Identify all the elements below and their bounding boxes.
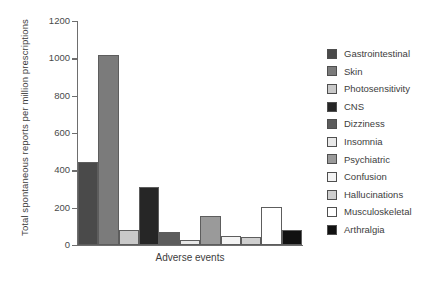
y-axis-tick: [72, 96, 77, 97]
y-axis-tick: [72, 245, 77, 246]
y-axis-tick-label: 0: [30, 239, 70, 250]
legend-swatch-icon: [327, 84, 337, 94]
legend-item-label: Psychiatric: [344, 155, 390, 165]
x-axis-title: Adverse events: [78, 252, 302, 263]
bar-chart-figure: Total spontaneous reports per million pr…: [0, 0, 437, 283]
legend-item-dizziness: Dizziness: [327, 115, 437, 133]
bar-confusion: [221, 236, 241, 245]
legend-item-musculoskeletal: Musculoskeletal: [327, 203, 437, 221]
y-axis-tick-label: 600: [30, 127, 70, 138]
legend-swatch-icon: [327, 102, 337, 112]
legend-item-arthralgia: Arthralgia: [327, 221, 437, 239]
y-axis-tick: [72, 133, 77, 134]
legend-swatch-icon: [327, 154, 337, 164]
bar-gastrointestinal: [78, 162, 98, 245]
legend-swatch-icon: [327, 190, 337, 200]
y-axis-tick-label: 1200: [30, 15, 70, 26]
legend-item-hallucinations: Hallucinations: [327, 186, 437, 204]
bar-insomnia: [180, 240, 200, 245]
legend-swatch-icon: [327, 225, 337, 235]
y-axis-tick-label: 1000: [30, 52, 70, 63]
legend-item-cns: CNS: [327, 98, 437, 116]
bar-hallucinations: [241, 237, 261, 245]
legend-swatch-icon: [327, 119, 337, 129]
legend-item-insomnia: Insomnia: [327, 133, 437, 151]
legend-item-label: Hallucinations: [344, 190, 403, 200]
legend-item-gastrointestinal: Gastrointestinal: [327, 45, 437, 63]
bar-photosensitivity: [119, 230, 139, 245]
y-axis-tick: [72, 21, 77, 22]
legend-item-label: Dizziness: [344, 119, 385, 129]
legend-item-psychiatric: Psychiatric: [327, 151, 437, 169]
legend-swatch-icon: [327, 172, 337, 182]
bar-series: [78, 21, 302, 245]
legend-swatch-icon: [327, 137, 337, 147]
legend-item-confusion: Confusion: [327, 168, 437, 186]
y-axis-tick: [72, 208, 77, 209]
legend-item-label: Gastrointestinal: [344, 49, 410, 59]
legend-swatch-icon: [327, 207, 337, 217]
y-axis-tick-label: 800: [30, 90, 70, 101]
chart-legend: GastrointestinalSkinPhotosensitivityCNSD…: [327, 45, 437, 239]
legend-swatch-icon: [327, 66, 337, 76]
legend-item-label: Skin: [344, 67, 362, 77]
bar-arthralgia: [282, 230, 302, 245]
y-axis-tick-label: 200: [30, 202, 70, 213]
bar-dizziness: [159, 232, 179, 245]
y-axis-tick-label: 400: [30, 164, 70, 175]
bar-cns: [139, 187, 159, 245]
legend-item-skin: Skin: [327, 63, 437, 81]
legend-item-label: Confusion: [344, 172, 387, 182]
bar-psychiatric: [200, 216, 220, 245]
plot-area: [78, 21, 302, 245]
y-axis-tick: [72, 58, 77, 59]
bar-skin: [98, 55, 118, 245]
y-axis-title: Total spontaneous reports per million pr…: [19, 8, 30, 248]
legend-item-label: CNS: [344, 102, 364, 112]
y-axis-tick: [72, 170, 77, 171]
legend-item-photosensitivity: Photosensitivity: [327, 80, 437, 98]
legend-item-label: Musculoskeletal: [344, 207, 412, 217]
legend-swatch-icon: [327, 49, 337, 59]
bar-musculoskeletal: [261, 207, 281, 245]
legend-item-label: Photosensitivity: [344, 84, 410, 94]
x-axis-line: [77, 245, 303, 246]
legend-item-label: Arthralgia: [344, 225, 385, 235]
legend-item-label: Insomnia: [344, 137, 383, 147]
